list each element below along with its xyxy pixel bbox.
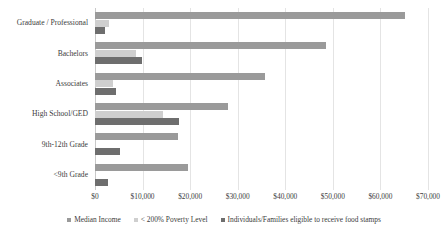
category-label: Bachelors: [0, 49, 88, 58]
bar: [95, 148, 120, 155]
category-label: 9th-12th Grade: [0, 140, 88, 149]
x-tick-label: $0: [91, 192, 98, 202]
legend-label: < 200% Poverty Level: [141, 215, 208, 225]
legend-swatch-icon: [221, 218, 225, 222]
bar-group: [95, 99, 428, 129]
bar: [95, 57, 142, 64]
x-tick-label: $20,000: [178, 192, 202, 202]
bar-chart: Graduate / ProfessionalBachelorsAssociat…: [0, 0, 448, 241]
x-tick-label: $10,000: [131, 192, 155, 202]
legend-label: Individuals/Families eligible to receive…: [228, 215, 381, 225]
bar-group: [95, 38, 428, 68]
bar: [95, 12, 405, 19]
bar: [95, 111, 163, 118]
bar: [95, 42, 326, 49]
legend-label: Median Income: [74, 215, 121, 225]
bar: [95, 164, 188, 171]
bar: [95, 27, 105, 34]
gridline: [428, 8, 429, 190]
category-label: Graduate / Professional: [0, 18, 88, 27]
bar: [95, 88, 116, 95]
x-tick-label: $60,000: [368, 192, 392, 202]
bar-group: [95, 8, 428, 38]
category-label: <9th Grade: [0, 170, 88, 179]
legend-swatch-icon: [67, 218, 71, 222]
legend-item[interactable]: < 200% Poverty Level: [134, 215, 208, 225]
category-axis-labels: Graduate / ProfessionalBachelorsAssociat…: [0, 8, 92, 190]
x-tick-label: $50,000: [321, 192, 345, 202]
bar: [95, 103, 228, 110]
x-tick-label: $40,000: [273, 192, 297, 202]
x-axis-tick-labels: $0$10,000$20,000$30,000$40,000$50,000$60…: [0, 192, 448, 206]
bar: [95, 50, 136, 57]
chart-legend: Median Income< 200% Poverty LevelIndivid…: [0, 213, 448, 227]
bar-group: [95, 69, 428, 99]
x-tick-label: $30,000: [226, 192, 250, 202]
bar-group: [95, 160, 428, 190]
bar: [95, 80, 113, 87]
bar-group: [95, 129, 428, 159]
bar: [95, 118, 179, 125]
legend-item[interactable]: Median Income: [67, 215, 121, 225]
plot-area: [95, 8, 428, 190]
bar: [95, 73, 265, 80]
category-label: Associates: [0, 79, 88, 88]
legend-swatch-icon: [134, 218, 138, 222]
bar: [95, 179, 108, 186]
legend-item[interactable]: Individuals/Families eligible to receive…: [221, 215, 381, 225]
x-tick-label: $70,000: [416, 192, 440, 202]
category-label: High School/GED: [0, 109, 88, 118]
bar: [95, 133, 178, 140]
bar: [95, 20, 109, 27]
